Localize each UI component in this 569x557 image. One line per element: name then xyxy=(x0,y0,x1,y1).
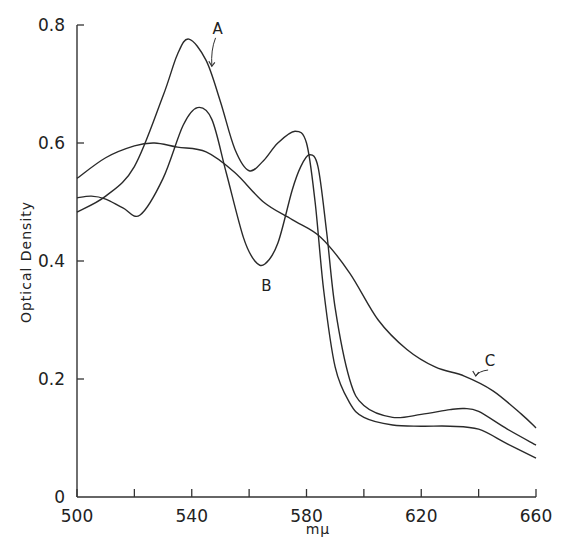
optical-density-chart: 50054058062066000.20.40.60.8 ABC mμ Opti… xyxy=(0,0,569,557)
annotations: ABC xyxy=(209,20,496,376)
y-tick-label: 0.4 xyxy=(38,251,65,271)
curve-label-c: C xyxy=(485,352,495,370)
x-tick-label: 660 xyxy=(520,506,552,526)
x-tick-label: 540 xyxy=(176,506,208,526)
ticks: 50054058062066000.20.40.60.8 xyxy=(38,15,552,526)
y-axis-label: Optical Density xyxy=(18,201,34,323)
curves xyxy=(77,39,536,458)
arrow-head-icon xyxy=(473,371,479,376)
axes xyxy=(77,25,536,497)
y-tick-label: 0.8 xyxy=(38,15,65,35)
y-tick-label: 0.6 xyxy=(38,133,65,153)
curve-label-b: B xyxy=(261,277,271,295)
annotation-arrow xyxy=(212,38,216,66)
x-tick-label: 500 xyxy=(61,506,93,526)
x-tick-label: 620 xyxy=(405,506,437,526)
y-tick-label: 0.2 xyxy=(38,369,65,389)
curve-a xyxy=(77,39,536,458)
y-tick-label: 0 xyxy=(54,487,65,507)
curve-b xyxy=(77,107,536,445)
curve-label-a: A xyxy=(212,20,223,38)
curve-c xyxy=(77,143,536,428)
x-axis-label: mμ xyxy=(306,521,331,537)
